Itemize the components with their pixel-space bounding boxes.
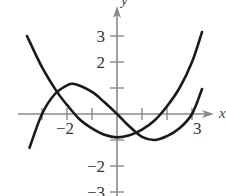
y-tick-label: −2 [87, 157, 105, 176]
x-tick-label: −2 [56, 119, 74, 138]
x-axis-label: x [218, 105, 226, 121]
x-tick-label: 3 [193, 119, 202, 138]
y-tick-label: 3 [97, 27, 106, 46]
curves [27, 32, 202, 148]
y-tick-label: −3 [87, 183, 105, 196]
parabola-curve [27, 32, 202, 137]
tick-labels: −2332−2−3 [56, 27, 202, 196]
axes [18, 6, 214, 196]
y-axis-label: y [119, 0, 128, 8]
y-tick-label: 2 [97, 53, 106, 72]
function-graph: . −2332−2−3 x y [0, 0, 226, 196]
